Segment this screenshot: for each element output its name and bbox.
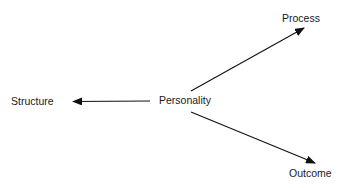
node-structure: Structure: [11, 96, 54, 107]
node-outcome: Outcome: [289, 168, 332, 179]
arrow-to-process: [191, 28, 304, 91]
arrow-to-outcome: [191, 112, 315, 163]
node-process: Process: [282, 13, 320, 24]
node-personality: Personality: [159, 95, 211, 106]
arrow-to-structure: [73, 101, 150, 102]
